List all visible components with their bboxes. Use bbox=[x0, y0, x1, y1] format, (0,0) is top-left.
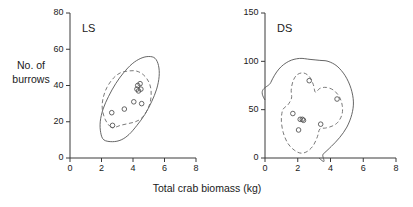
y-axis-title-line2: burrows bbox=[12, 73, 49, 85]
y-axis-title-line1: No. of bbox=[17, 59, 45, 71]
data-point bbox=[318, 122, 323, 127]
panel-label-ls: LS bbox=[82, 22, 95, 34]
x-tick-label: 6 bbox=[162, 163, 167, 173]
data-point bbox=[335, 97, 340, 102]
y-tick-label: 40 bbox=[53, 80, 63, 90]
data-point bbox=[307, 78, 312, 83]
axis-lines bbox=[70, 13, 196, 158]
panel-label-ds: DS bbox=[277, 22, 292, 34]
data-point bbox=[109, 110, 114, 115]
x-tick-label: 4 bbox=[130, 163, 135, 173]
panel-ls: 02040608002468LS bbox=[53, 7, 198, 173]
data-point bbox=[139, 101, 144, 106]
x-tick-label: 2 bbox=[99, 163, 104, 173]
x-tick-label: 6 bbox=[361, 163, 366, 173]
x-tick-label: 4 bbox=[328, 163, 333, 173]
data-point bbox=[122, 107, 127, 112]
x-tick-label: 0 bbox=[67, 163, 72, 173]
x-tick-label: 0 bbox=[262, 163, 267, 173]
y-tick-label: 150 bbox=[243, 7, 258, 17]
x-axis-title: Total crab biomass (kg) bbox=[153, 182, 262, 194]
y-tick-label: 0 bbox=[58, 152, 63, 162]
outer-95-contour bbox=[262, 58, 353, 161]
y-tick-label: 80 bbox=[53, 7, 63, 17]
x-tick-label: 2 bbox=[295, 163, 300, 173]
data-point bbox=[291, 111, 296, 116]
y-tick-label: 20 bbox=[53, 116, 63, 126]
y-tick-label: 0 bbox=[253, 152, 258, 162]
data-point bbox=[296, 128, 301, 133]
data-point bbox=[110, 123, 115, 128]
panel-ds: 05010015002468DS bbox=[243, 7, 398, 173]
inner-50-contour bbox=[102, 71, 151, 128]
axis-lines bbox=[265, 13, 396, 158]
scatter-figure: 02040608002468LS05010015002468DSTotal cr… bbox=[0, 0, 413, 207]
y-tick-label: 60 bbox=[53, 44, 63, 54]
x-tick-label: 8 bbox=[193, 163, 198, 173]
figure-container: 02040608002468LS05010015002468DSTotal cr… bbox=[0, 0, 413, 207]
y-tick-label: 50 bbox=[248, 104, 258, 114]
y-tick-label: 100 bbox=[243, 56, 258, 66]
x-tick-label: 8 bbox=[393, 163, 398, 173]
data-point bbox=[131, 100, 136, 105]
